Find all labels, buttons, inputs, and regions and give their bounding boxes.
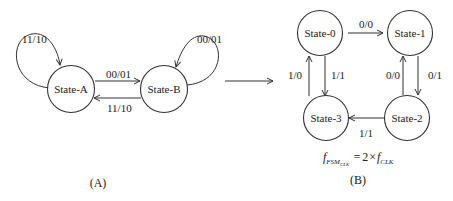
formula-rhs-sub: CLK xyxy=(380,158,394,166)
transition-label-3-to-0: 1/0 xyxy=(288,69,303,81)
state-b: State-B xyxy=(141,66,188,113)
state-a-label: State-A xyxy=(54,83,88,95)
state-1: State-1 xyxy=(388,11,433,56)
state-3: State-3 xyxy=(304,96,349,141)
formula-lhs-subsub: CLK xyxy=(340,162,350,167)
caption-b: (B) xyxy=(350,173,366,187)
transition-label-1-to-2: 0/1 xyxy=(428,69,442,81)
clock-formula: fFSMCLK=2×fCLK xyxy=(323,150,394,167)
caption-a: (A) xyxy=(90,176,107,190)
state-0-label: State-0 xyxy=(304,27,336,39)
transition-label-a-to-b: 00/01 xyxy=(106,68,131,80)
transition-label-0-to-1: 0/0 xyxy=(359,18,374,30)
transition-label-a-to-a: 11/10 xyxy=(22,33,47,45)
state-2-label: State-2 xyxy=(391,112,422,124)
diagram-a: 11/10 00/01 00/01 11/10 State-A State-B … xyxy=(16,33,222,190)
formula-factor: 2 xyxy=(362,150,368,164)
state-b-label: State-B xyxy=(148,83,181,95)
transition-label-0-to-3: 1/1 xyxy=(331,69,345,81)
transition-label-2-to-3: 1/1 xyxy=(359,127,373,139)
diagram-b: 0/0 0/1 0/0 1/1 1/0 1/1 State-0 State-1 … xyxy=(288,11,442,188)
state-a: State-A xyxy=(48,66,95,113)
state-1-label: State-1 xyxy=(394,27,425,39)
fsm-diagram: 11/10 00/01 00/01 11/10 State-A State-B … xyxy=(0,0,453,201)
transition-label-2-to-1: 0/0 xyxy=(386,69,401,81)
state-2: State-2 xyxy=(385,96,430,141)
formula-equals: = xyxy=(353,150,360,164)
formula-times: × xyxy=(369,150,376,164)
formula-lhs-sub: FSM xyxy=(325,158,341,166)
transition-label-b-to-b: 00/01 xyxy=(197,33,222,45)
state-0: State-0 xyxy=(298,11,343,56)
transition-label-b-to-a: 11/10 xyxy=(107,102,132,114)
state-3-label: State-3 xyxy=(310,112,342,124)
